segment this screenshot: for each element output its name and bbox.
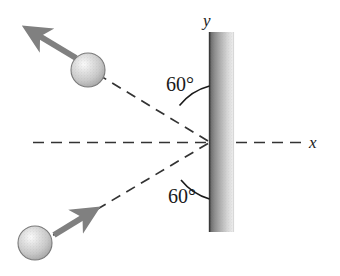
x-axis-label: x: [308, 133, 317, 152]
lower-angle-label: 60°: [168, 185, 196, 207]
physics-diagram-canvas: x y 60° 60°: [0, 0, 340, 276]
ball-incoming: [18, 226, 52, 260]
diagram-svg: x y 60° 60°: [0, 0, 340, 276]
upper-angle-label: 60°: [166, 73, 194, 95]
wall: [209, 32, 234, 232]
ball-outgoing: [71, 53, 105, 87]
incoming-velocity-arrow: [54, 211, 94, 236]
y-axis-label: y: [201, 11, 211, 30]
outgoing-velocity-arrow: [29, 30, 77, 59]
